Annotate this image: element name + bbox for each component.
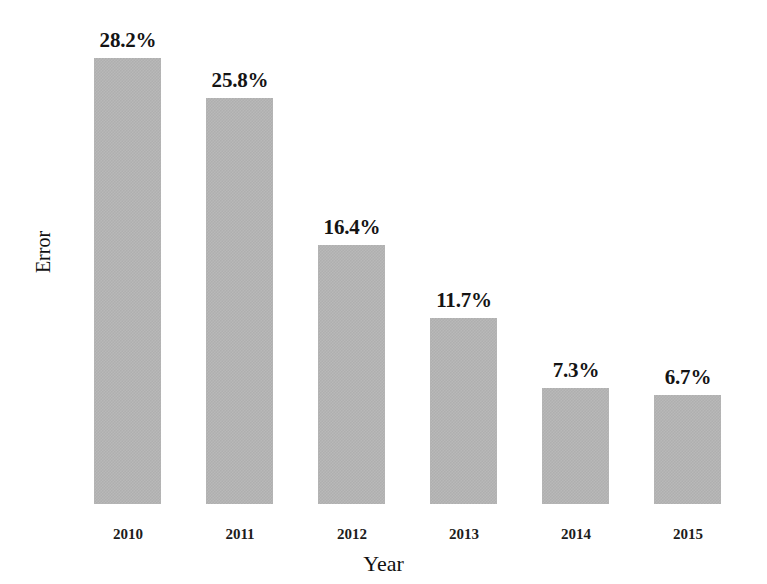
x-tick-label-2014: 2014 (526, 527, 626, 542)
x-tick-label-2015: 2015 (638, 527, 738, 542)
bar-2011 (206, 98, 273, 504)
bar-2010 (94, 58, 161, 504)
y-axis-title: Error (33, 225, 53, 279)
bar-2012 (318, 245, 385, 504)
value-label: 6.7% (638, 367, 738, 388)
plot-area: 28.2% 2010 25.8% 2011 16.4% 2012 11.7% 2… (0, 0, 767, 584)
bar-2015 (654, 395, 721, 504)
x-tick-label-2011: 2011 (190, 527, 290, 542)
x-tick-label-2012: 2012 (302, 527, 402, 542)
bar-chart: 28.2% 2010 25.8% 2011 16.4% 2012 11.7% 2… (0, 0, 767, 584)
bar-2013 (430, 318, 497, 504)
value-label: 11.7% (414, 290, 514, 311)
value-label: 28.2% (78, 30, 178, 51)
x-tick-label-2013: 2013 (414, 527, 514, 542)
x-tick-label-2010: 2010 (78, 527, 178, 542)
bar-2014 (542, 388, 609, 504)
value-label: 16.4% (302, 217, 402, 238)
value-label: 25.8% (190, 70, 290, 91)
value-label: 7.3% (526, 360, 626, 381)
x-axis-title: Year (0, 553, 767, 575)
